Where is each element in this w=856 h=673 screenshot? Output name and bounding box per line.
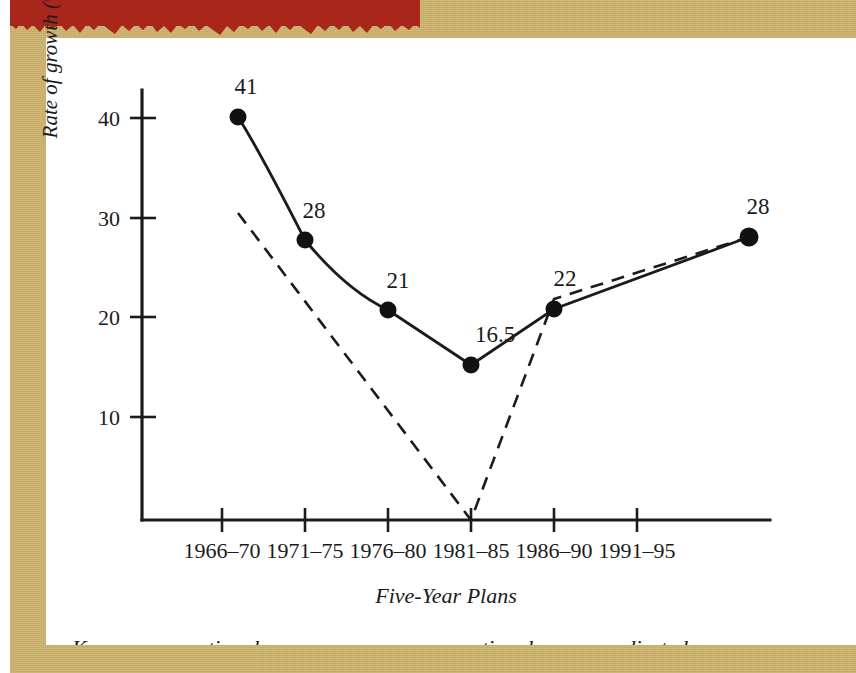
x-tick-label-2: 1976–80 [350, 538, 427, 563]
x-tick-label-0: 1966–70 [184, 538, 261, 563]
legend-label-national-revenue: national revenue [186, 635, 334, 645]
chart-legend: Key: national revenue national revenue a… [71, 635, 689, 645]
value-label-1981-85: 16.5 [475, 322, 515, 347]
red-band-torn-edge [10, 20, 420, 36]
legend-label-national-revenue-adjusted: national revenue adjusted [460, 635, 689, 645]
data-point-1991-95 [740, 228, 759, 247]
y-tick-label-40: 40 [98, 106, 120, 131]
value-label-1966-70: 41 [235, 74, 258, 99]
line-chart-svg: 40 30 20 10 [46, 38, 856, 645]
y-axis-tick-labels: 40 30 20 10 [98, 106, 120, 430]
value-label-1986-90: 22 [554, 266, 577, 291]
y-tick-label-10: 10 [98, 405, 120, 430]
x-tick-label-3: 1981–85 [433, 538, 510, 563]
legend-key-label: Key: [71, 635, 114, 645]
data-point-1981-85 [463, 357, 480, 374]
chart-area: Rate of growth (%) 40 30 [46, 38, 856, 645]
data-point-1976-80 [380, 302, 397, 319]
x-tick-label-1: 1971–75 [267, 538, 344, 563]
data-point-1971-75 [297, 232, 314, 249]
y-axis-title: Rate of growth (%) [38, 0, 63, 188]
data-point-1986-90 [546, 301, 563, 318]
x-tick-label-5: 1991–95 [599, 538, 676, 563]
figure-page: Rate of growth (%) 40 30 [0, 0, 856, 673]
y-tick-label-20: 20 [98, 305, 120, 330]
data-point-value-labels: 41 28 21 16.5 22 28 [235, 74, 770, 347]
series-national-revenue-adjusted-line [238, 213, 749, 520]
value-label-1991-95: 28 [747, 194, 770, 219]
y-tick-label-30: 30 [98, 206, 120, 231]
x-axis-tick-labels: 1966–70 1971–75 1976–80 1981–85 1986–90 … [184, 538, 676, 563]
value-label-1976-80: 21 [387, 268, 410, 293]
value-label-1971-75: 28 [303, 198, 326, 223]
x-axis-title: Five-Year Plans [374, 583, 517, 608]
x-tick-label-4: 1986–90 [516, 538, 593, 563]
data-point-1966-70 [230, 109, 247, 126]
chart-panel: Rate of growth (%) 40 30 [46, 38, 856, 645]
axes [142, 90, 770, 520]
